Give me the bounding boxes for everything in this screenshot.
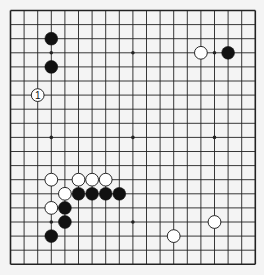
white-stone: [208, 216, 221, 229]
black-stone: [72, 187, 85, 200]
star-point: [50, 136, 54, 140]
black-stone: [59, 216, 72, 229]
black-stone: [99, 187, 112, 200]
star-point: [50, 51, 54, 55]
white-stone: [72, 173, 85, 186]
black-stone: [45, 61, 58, 74]
star-point: [131, 136, 135, 140]
black-stone: [59, 202, 72, 215]
white-stone: [195, 46, 208, 59]
black-stone: [222, 46, 235, 59]
star-point: [131, 51, 135, 55]
white-stone: [45, 202, 58, 215]
white-stone: [59, 187, 72, 200]
star-point: [213, 136, 217, 140]
black-stone: [45, 32, 58, 45]
white-stone: [99, 173, 112, 186]
star-point: [50, 220, 54, 224]
move-number-label: 1: [35, 90, 41, 101]
white-stone: [167, 230, 180, 243]
black-stone: [45, 230, 58, 243]
white-stone: [86, 173, 99, 186]
white-stone: [45, 173, 58, 186]
star-point: [213, 51, 217, 55]
black-stone: [113, 187, 126, 200]
black-stone: [86, 187, 99, 200]
go-board: 1: [0, 0, 264, 275]
star-point: [131, 220, 135, 224]
